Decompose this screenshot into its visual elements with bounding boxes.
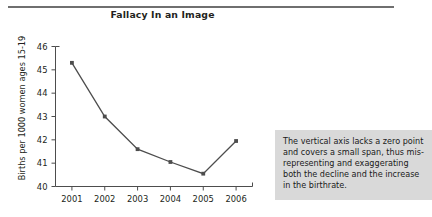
data-point-markers [70,61,238,176]
axis-lines [56,47,253,187]
x-axis-tick-label: 2004 [160,194,181,204]
x-axis-ticks [72,187,236,191]
series-line [72,63,236,174]
y-axis-ticks [52,47,56,187]
data-point-marker [136,147,140,151]
y-axis-tick-label: 43 [37,112,48,122]
y-axis-tick-label: 45 [37,65,48,75]
y-axis-tick-label: 42 [37,135,48,145]
data-point-marker [169,160,173,164]
y-axis-tick-label: 41 [37,158,48,168]
x-axis-tick-label: 2006 [225,194,246,204]
x-axis-tick-label: 2003 [127,194,148,204]
y-axis-tick-label: 46 [37,42,48,52]
data-series-line [72,63,236,174]
x-axis-tick-label: 2002 [94,194,115,204]
data-point-marker [103,115,107,119]
caption-text: The vertical axis lacks a zero point and… [283,136,425,191]
y-axis-tick-label: 44 [37,88,48,98]
data-point-marker [201,172,205,176]
y-axis-tick-label: 40 [37,182,48,192]
x-axis-tick-label: 2005 [193,194,214,204]
y-axis-tick-labels: 40414243444546 [37,42,48,192]
x-axis-tick-label: 2001 [61,194,82,204]
caption-box: The vertical axis lacks a zero point and… [275,130,432,200]
data-point-marker [234,139,238,143]
x-axis-tick-labels: 200120022003200420052006 [61,194,246,204]
figure: Fallacy In an Image Births per 1000 wome… [0,0,432,217]
data-point-marker [70,61,74,65]
